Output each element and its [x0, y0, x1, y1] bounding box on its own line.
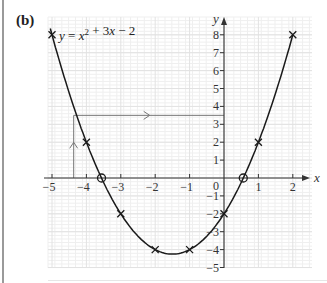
x-axis-label: x — [313, 170, 320, 185]
x-tick-label: −1 — [180, 180, 193, 194]
x-axis-arrow-icon — [302, 175, 310, 181]
y-tick-label: −5 — [206, 261, 219, 275]
y-tick-label: −4 — [206, 243, 219, 257]
y-tick-label: 4 — [213, 99, 219, 113]
y-tick-label: 5 — [213, 82, 219, 96]
y-tick-label: 6 — [213, 64, 219, 78]
quadratic-graph: −5−4−3−2−11287654321−1−2−3−4−50xy y = x2… — [0, 0, 327, 283]
y-tick-label: 3 — [213, 117, 219, 131]
y-tick-label: 2 — [213, 135, 219, 149]
x-tick-label: 2 — [290, 180, 296, 194]
y-tick-label: −3 — [206, 225, 219, 239]
y-tick-label: 7 — [213, 46, 219, 60]
reading-annotation — [70, 111, 224, 178]
x-tick-label: −3 — [111, 180, 124, 194]
x-tick-label: −2 — [146, 180, 159, 194]
y-tick-label: 8 — [213, 28, 219, 42]
x-tick-label: −5 — [43, 180, 56, 194]
y-tick-label: 1 — [213, 153, 219, 167]
y-axis-label: y — [211, 11, 219, 26]
x-tick-label: −4 — [77, 180, 90, 194]
y-tick-label: −2 — [206, 207, 219, 221]
origin-label: 0 — [213, 179, 219, 193]
x-tick-label: 1 — [255, 180, 261, 194]
